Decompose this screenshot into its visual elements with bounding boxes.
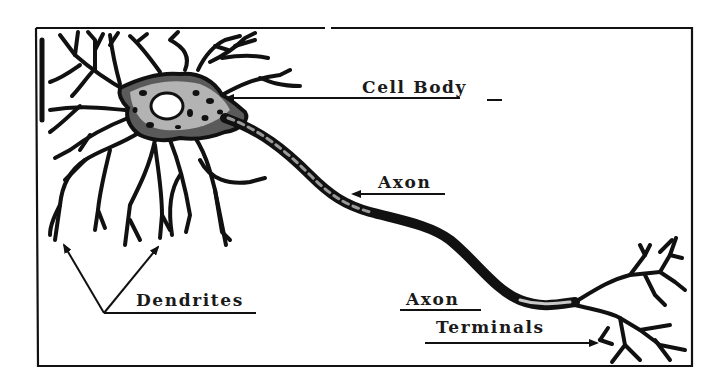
axon-fiber <box>225 118 575 305</box>
axon-label: Axon <box>378 174 431 191</box>
dendrites-pointer-arrow-left <box>64 245 104 313</box>
axon-terminals-label-line2: Terminals <box>436 319 545 336</box>
cell-body-shape <box>119 74 246 141</box>
neuron-diagram: Cell Body Axon Axon Terminals Dendrites <box>0 0 726 388</box>
neuron-illustration <box>0 0 726 388</box>
nucleus <box>151 93 183 119</box>
axon-terminals-label-line1: Axon <box>406 291 459 308</box>
cell-body-label-text: Cell Body <box>362 77 467 97</box>
dendrites-label: Dendrites <box>136 292 244 309</box>
cell-body-label: Cell Body <box>362 79 467 96</box>
